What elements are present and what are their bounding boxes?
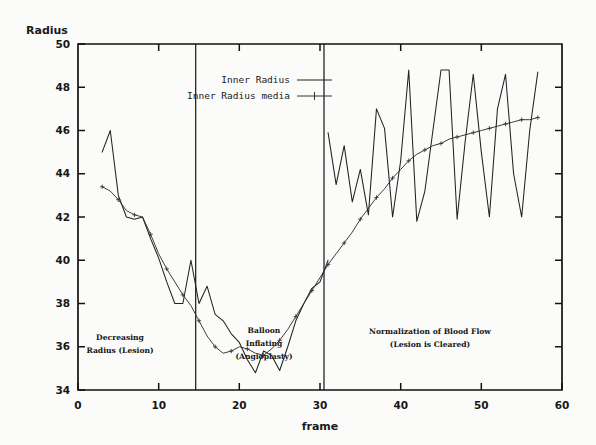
chart-legend: Inner Radius Inner Radius media bbox=[187, 74, 332, 101]
series-marker bbox=[536, 115, 540, 119]
y-tick-label: 46 bbox=[55, 124, 70, 136]
series-line bbox=[102, 118, 538, 356]
radius-vs-frame-chart: 34 36 38 40 42 44 46 48 50 0 10 20 30 40… bbox=[0, 0, 596, 445]
annotation-line: Inflating bbox=[246, 339, 283, 348]
series-marker bbox=[439, 141, 443, 145]
series-marker bbox=[519, 117, 523, 121]
annotation-line: (Lesion is Cleared) bbox=[390, 340, 470, 349]
annotation-phase-3: Normalization of Blood Flow (Lesion is C… bbox=[369, 327, 491, 349]
x-tick-label: 30 bbox=[313, 399, 328, 411]
y-tick-label: 50 bbox=[55, 38, 70, 50]
y-tick-label: 34 bbox=[55, 384, 70, 396]
series-marker bbox=[100, 185, 104, 189]
series-marker bbox=[197, 319, 201, 323]
chart-figure: 34 36 38 40 42 44 46 48 50 0 10 20 30 40… bbox=[0, 0, 596, 445]
y-tick-label: 42 bbox=[55, 211, 70, 223]
series-marker bbox=[132, 213, 136, 217]
series-marker bbox=[229, 349, 233, 353]
annotation-phase-1: Decreasing Radius (Lesion) bbox=[86, 333, 153, 355]
series-marker bbox=[423, 148, 427, 152]
y-tick-label: 44 bbox=[55, 167, 70, 179]
annotation-line: Balloon bbox=[248, 326, 281, 335]
x-tick-label: 40 bbox=[393, 399, 408, 411]
annotation-line: Decreasing bbox=[96, 333, 144, 342]
x-tick-label: 60 bbox=[555, 399, 570, 411]
x-tick-label: 10 bbox=[151, 399, 166, 411]
y-tick-label: 38 bbox=[55, 297, 70, 309]
x-tick-labels: 0 10 20 30 40 50 60 bbox=[74, 399, 569, 411]
annotation-line: Radius (Lesion) bbox=[86, 346, 153, 355]
x-tick-label: 50 bbox=[474, 399, 489, 411]
x-tick-label: 0 bbox=[74, 399, 81, 411]
annotation-line: Normalization of Blood Flow bbox=[369, 327, 491, 336]
y-tick-labels: 34 36 38 40 42 44 46 48 50 bbox=[55, 38, 70, 396]
y-tick-label: 40 bbox=[55, 254, 70, 266]
y-tick-label: 48 bbox=[55, 81, 70, 93]
series-marker bbox=[455, 135, 459, 139]
y-axis-title: Radius bbox=[26, 24, 68, 37]
legend-label-inner-radius-media: Inner Radius media bbox=[187, 90, 290, 101]
series-marker bbox=[471, 130, 475, 134]
series-marker bbox=[503, 122, 507, 126]
legend-label-inner-radius: Inner Radius bbox=[221, 74, 290, 85]
y-tick-label: 36 bbox=[55, 340, 70, 352]
series-line-with-plus-markers bbox=[100, 115, 540, 357]
series-marker bbox=[165, 267, 169, 271]
x-axis-title: frame bbox=[302, 420, 339, 433]
series-marker bbox=[487, 126, 491, 130]
x-tick-label: 20 bbox=[232, 399, 247, 411]
